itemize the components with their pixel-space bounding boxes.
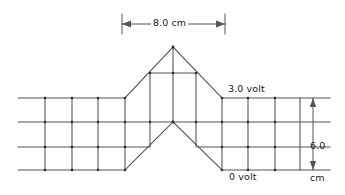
- height-dim-arrow-top: [310, 98, 316, 107]
- width-dim-arrow-left: [122, 21, 131, 28]
- top-potential-label: 3.0 volt: [228, 84, 265, 95]
- bottom-potential-label: 0 volt: [229, 172, 256, 183]
- v-notch: [125, 122, 222, 170]
- grid-node-dots: [44, 46, 277, 172]
- width-dim-arrow-right: [216, 21, 225, 28]
- vertical-lines-right: [222, 98, 300, 170]
- notch-right-slope: [173, 122, 222, 170]
- height-dimension-label-line1: 6.0: [310, 141, 325, 152]
- notch-left-slope: [125, 122, 173, 170]
- vertical-lines-center: [150, 47, 196, 147]
- height-dimension-label: 6.0 cm: [310, 120, 325, 194]
- width-dimension-label: 8.0 cm: [151, 18, 188, 29]
- height-dimension-label-line2: cm: [310, 173, 325, 184]
- vertical-lines-left: [45, 98, 125, 170]
- equipotential-grid-diagram: [0, 0, 345, 195]
